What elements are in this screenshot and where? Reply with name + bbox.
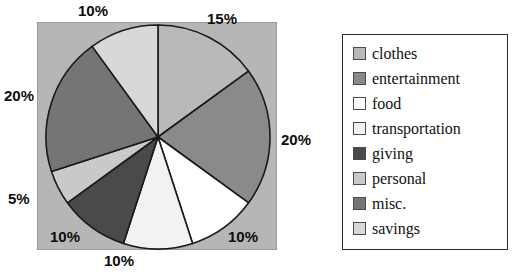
legend-item-label: savings	[372, 221, 420, 237]
pie-label-food: 10%	[104, 252, 134, 269]
legend-item-label: clothes	[372, 46, 417, 62]
chart-legend: clothesentertainmentfoodtransportationgi…	[342, 34, 508, 250]
pie-label-personal: 5%	[8, 190, 30, 207]
legend-swatch-icon	[353, 222, 366, 235]
pie-label-entertainment: 20%	[281, 131, 311, 148]
legend-swatch-icon	[353, 47, 366, 60]
chart-screenshot: 10% 15% 20% 10% 10% 10% 5% 20% clothesen…	[0, 0, 517, 278]
legend-item-label: misc.	[372, 196, 406, 212]
legend-swatch-icon	[353, 197, 366, 210]
legend-item-label: entertainment	[372, 71, 460, 87]
legend-item-clothes[interactable]: clothes	[353, 41, 507, 66]
legend-swatch-icon	[353, 122, 366, 135]
legend-swatch-icon	[353, 147, 366, 160]
legend-item-transportation[interactable]: transportation	[353, 116, 507, 141]
pie-label-transportation: 10%	[228, 228, 258, 245]
legend-item-label: transportation	[372, 121, 461, 137]
legend-swatch-icon	[353, 72, 366, 85]
pie-chart-plot-area	[37, 22, 277, 250]
legend-item-label: personal	[372, 171, 426, 187]
legend-swatch-icon	[353, 172, 366, 185]
legend-swatch-icon	[353, 97, 366, 110]
pie-chart-svg	[38, 23, 278, 251]
pie-label-clothes: 15%	[207, 10, 237, 27]
legend-item-misc[interactable]: misc.	[353, 191, 507, 216]
legend-item-label: giving	[372, 146, 413, 162]
legend-item-food[interactable]: food	[353, 91, 507, 116]
legend-item-personal[interactable]: personal	[353, 166, 507, 191]
pie-label-savings: 10%	[78, 2, 108, 19]
legend-item-savings[interactable]: savings	[353, 216, 507, 241]
pie-label-misc: 20%	[4, 87, 34, 104]
legend-item-giving[interactable]: giving	[353, 141, 507, 166]
pie-slice-group	[46, 25, 270, 249]
legend-item-label: food	[372, 96, 401, 112]
pie-label-giving: 10%	[50, 228, 80, 245]
legend-item-entertainment[interactable]: entertainment	[353, 66, 507, 91]
